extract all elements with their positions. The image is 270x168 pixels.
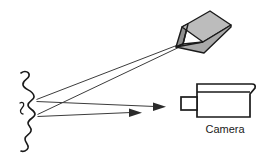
camera-lens-icon	[181, 97, 197, 110]
surface-outline	[21, 72, 35, 152]
projector-top-face	[182, 11, 231, 42]
arrowhead-short-icon	[129, 109, 142, 117]
wavy-surface	[20, 72, 35, 152]
camera-label: Camera	[205, 123, 245, 135]
diagram-canvas: Camera	[0, 0, 270, 168]
ray-projector-upper	[37, 46, 177, 100]
camera-body-outline	[197, 84, 255, 117]
scene-svg: Camera	[0, 0, 270, 168]
ray-reflect-short	[38, 113, 132, 117]
arrowhead-long-icon	[153, 103, 166, 111]
ray-group-reflected	[37, 102, 167, 118]
ray-reflect-long	[37, 102, 156, 107]
projector	[176, 11, 231, 53]
camera: Camera	[181, 84, 255, 135]
surface-inner-detail	[20, 102, 24, 114]
